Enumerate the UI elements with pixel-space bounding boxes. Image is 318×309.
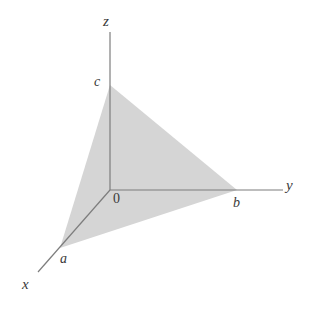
point-label-b: b — [233, 196, 240, 210]
coordinate-axes-figure: z y x c b a 0 — [0, 0, 318, 309]
y-axis-label: y — [286, 178, 293, 193]
z-axis-label: z — [103, 14, 109, 29]
origin-label: 0 — [113, 192, 120, 206]
point-label-a: a — [60, 252, 67, 266]
axes-and-plane-graphic — [0, 0, 318, 309]
point-label-c: c — [94, 75, 100, 89]
x-axis-label: x — [22, 277, 29, 292]
shaded-plane-triangle — [60, 85, 237, 248]
